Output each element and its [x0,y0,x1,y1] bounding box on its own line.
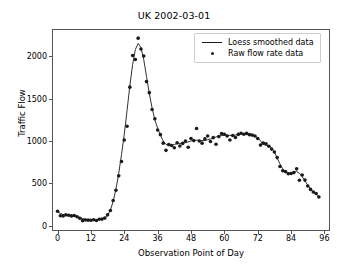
data-point [309,188,313,192]
data-point [131,54,135,58]
data-point [181,142,185,146]
data-point [206,134,210,138]
data-point [145,80,149,84]
data-point [203,137,207,141]
data-point [128,85,132,89]
data-point [114,188,118,192]
data-point [156,128,160,132]
chart-legend: Loess smoothed data Raw flow rate data [194,33,321,63]
data-point [142,54,146,58]
y-axis-label: Traffic Flow [17,53,27,173]
x-tick-label: 12 [86,234,96,243]
data-point [109,209,113,213]
chart-figure: UK 2002-03-01 0500100015002000 Traffic F… [0,0,348,273]
legend-item-loess: Loess smoothed data [199,37,314,48]
data-point [192,139,196,143]
data-point [214,142,218,146]
data-point [195,127,199,131]
data-point [170,144,174,148]
data-point [303,178,307,182]
raw-data-points [56,36,321,222]
data-point [161,141,165,145]
data-point [106,213,110,217]
data-point [275,156,279,160]
x-tick-label: 84 [286,234,296,243]
legend-line-swatch [199,42,225,43]
legend-label-raw: Raw flow rate data [225,49,303,58]
data-point [306,184,310,188]
data-point [234,136,238,140]
data-point [273,150,277,154]
x-tick-label: 96 [319,234,329,243]
data-point [78,216,82,220]
data-point [292,171,296,175]
data-point [56,210,60,214]
loess-smoothed-line [58,43,319,220]
data-point [178,144,182,148]
data-point [228,138,232,142]
data-point [314,192,318,196]
data-point [139,47,143,51]
data-point [267,145,271,149]
data-point [209,140,213,144]
y-tick-label: 2000 [27,52,47,61]
data-point [278,165,282,169]
x-tick-label: 36 [153,234,163,243]
legend-label-loess: Loess smoothed data [225,38,314,47]
y-tick-label: 1000 [27,137,47,146]
data-point [264,142,268,146]
data-point [270,147,274,151]
x-axis-tick-labels: 01224364860728496 [52,234,330,248]
data-point [253,134,257,138]
chart-title: UK 2002-03-01 [0,10,348,21]
legend-item-raw: Raw flow rate data [199,48,314,59]
x-axis-label: Observation Point of Day [52,248,330,258]
data-point [256,137,260,141]
data-point [184,139,188,143]
data-point [159,133,163,137]
x-tick-label: 0 [55,234,60,243]
data-point [136,36,140,40]
x-tick-label: 72 [253,234,263,243]
y-tick-label: 0 [42,221,47,230]
data-point [111,199,115,203]
data-point [186,146,190,150]
data-point [153,117,157,121]
legend-dot-swatch [199,52,225,55]
x-tick-label: 60 [219,234,229,243]
data-point [117,174,121,178]
data-point [211,136,215,140]
y-tick-label: 500 [32,179,47,188]
data-point [103,216,107,220]
data-point [200,141,204,145]
data-point [150,108,154,112]
data-point [295,167,299,171]
data-point [148,91,152,95]
data-point [120,160,124,164]
x-tick-label: 48 [186,234,196,243]
data-point [298,178,302,182]
x-tick-label: 24 [119,234,129,243]
data-point [122,138,126,142]
data-point [125,124,129,128]
data-point [173,146,177,150]
data-point [134,58,138,62]
data-point [300,173,304,177]
data-point [175,141,179,145]
data-point [217,135,221,139]
y-tick-label: 1500 [27,94,47,103]
data-point [317,195,321,199]
data-point [225,134,229,138]
data-point [164,149,168,153]
